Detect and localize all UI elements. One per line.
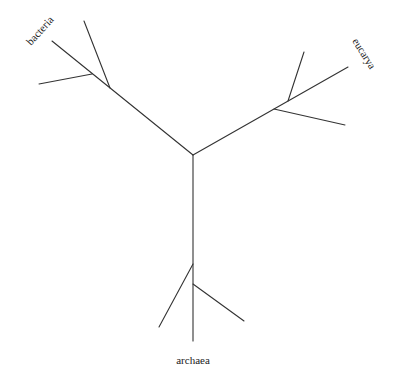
archaea-subbranch-2 [193, 284, 244, 321]
bacteria-subbranch-2 [39, 74, 92, 84]
eucarya-branch [193, 67, 348, 155]
eucarya-subbranch-2 [274, 109, 345, 125]
archaea-label: archaea [176, 354, 210, 366]
eucarya-label: eucarya [350, 36, 378, 71]
bacteria-label: bacteria [24, 13, 56, 47]
bacteria-branch [52, 41, 193, 155]
archaea-subbranch-1 [159, 264, 193, 327]
phylogenetic-tree: bacteria eucarya archaea [0, 0, 394, 383]
